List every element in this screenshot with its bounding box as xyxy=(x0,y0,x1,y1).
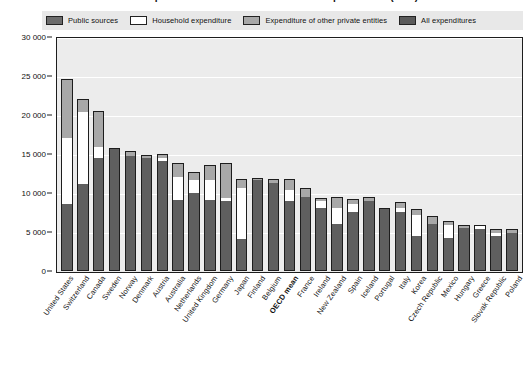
stacked-bar[interactable] xyxy=(252,178,263,271)
stacked-bar[interactable] xyxy=(236,179,247,271)
stacked-bar[interactable] xyxy=(363,197,374,271)
stacked-bar[interactable] xyxy=(474,225,485,271)
bar-segment-public xyxy=(332,224,341,270)
bar-segment-public xyxy=(78,184,87,270)
y-axis-tick-label: 30 000 xyxy=(22,33,46,42)
y-axis: 30 00025 00020 00015 00010 0005 0000 xyxy=(0,30,52,280)
bar-segment-public xyxy=(62,204,71,270)
stacked-bar[interactable] xyxy=(93,111,104,271)
stacked-bar[interactable] xyxy=(458,225,469,271)
stacked-bar[interactable] xyxy=(109,148,120,271)
bar-segment-public xyxy=(316,208,325,270)
bar-column[interactable] xyxy=(170,39,186,271)
bar-column[interactable] xyxy=(75,39,91,271)
bar-column[interactable] xyxy=(440,39,456,271)
legend-item-other[interactable]: Expenditure of other private entities xyxy=(243,16,387,25)
bar-column[interactable] xyxy=(250,39,266,271)
bar-segment-public xyxy=(158,161,167,270)
y-axis-tick-label: 15 000 xyxy=(22,150,46,159)
bar-segment-household xyxy=(348,204,357,212)
bar-column[interactable] xyxy=(218,39,234,271)
bar-segment-public xyxy=(475,229,484,270)
bar-column[interactable] xyxy=(138,39,154,271)
bar-column[interactable] xyxy=(281,39,297,271)
bar-column[interactable] xyxy=(456,39,472,271)
bar-segment-household xyxy=(316,201,325,208)
stacked-bar[interactable] xyxy=(204,165,215,272)
bar-column[interactable] xyxy=(377,39,393,271)
bar-segment-other-private xyxy=(189,173,198,181)
bar-column[interactable] xyxy=(91,39,107,271)
bar-segment-public xyxy=(205,200,214,270)
plot-wrapper xyxy=(56,37,523,273)
stacked-bar[interactable] xyxy=(61,79,72,271)
bar-column[interactable] xyxy=(234,39,250,271)
bar-segment-public xyxy=(380,209,389,270)
stacked-bar[interactable] xyxy=(172,163,183,271)
y-axis-tick-label: 25 000 xyxy=(22,72,46,81)
bar-column[interactable] xyxy=(424,39,440,271)
bar-segment-household xyxy=(189,180,198,192)
stacked-bar[interactable] xyxy=(331,197,342,271)
y-axis-tick-mark xyxy=(47,193,52,194)
legend-label: Public sources xyxy=(68,16,118,25)
legend-swatch-all-icon xyxy=(399,16,416,25)
bar-column[interactable] xyxy=(59,39,75,271)
legend-item-household[interactable]: Household expenditure xyxy=(130,16,231,25)
bar-segment-public xyxy=(173,200,182,270)
bar-segment-household xyxy=(78,112,87,184)
y-axis-tick-mark xyxy=(47,154,52,155)
bar-segment-public xyxy=(507,233,516,270)
bar-column[interactable] xyxy=(472,39,488,271)
bar-column[interactable] xyxy=(107,39,123,271)
bar-column[interactable] xyxy=(123,39,139,271)
stacked-bar[interactable] xyxy=(315,198,326,271)
stacked-bar[interactable] xyxy=(411,209,422,271)
stacked-bar[interactable] xyxy=(188,172,199,271)
bar-column[interactable] xyxy=(488,39,504,271)
bar-segment-other-private xyxy=(94,112,103,146)
bar-segment-public xyxy=(126,156,135,270)
bar-segment-other-private xyxy=(221,164,230,198)
legend-item-all[interactable]: All expenditures xyxy=(399,16,476,25)
bar-segment-public xyxy=(444,238,453,270)
stacked-bar[interactable] xyxy=(141,155,152,271)
legend-swatch-public-icon xyxy=(46,16,63,25)
bar-column[interactable] xyxy=(154,39,170,271)
stacked-bar[interactable] xyxy=(157,154,168,271)
stacked-bar[interactable] xyxy=(443,221,454,271)
bar-column[interactable] xyxy=(266,39,282,271)
stacked-bar[interactable] xyxy=(284,179,295,271)
bar-segment-other-private xyxy=(285,180,294,190)
legend-item-public[interactable]: Public sources xyxy=(46,16,118,25)
stacked-bar[interactable] xyxy=(395,202,406,271)
bar-column[interactable] xyxy=(329,39,345,271)
bar-segment-public xyxy=(364,201,373,270)
stacked-bar[interactable] xyxy=(490,229,501,271)
stacked-bar[interactable] xyxy=(506,229,517,271)
stacked-bar[interactable] xyxy=(379,208,390,271)
bar-segment-public xyxy=(491,236,500,270)
bar-column[interactable] xyxy=(297,39,313,271)
bar-segment-household xyxy=(94,147,103,159)
bar-column[interactable] xyxy=(409,39,425,271)
bar-column[interactable] xyxy=(504,39,520,271)
stacked-bar[interactable] xyxy=(427,216,438,271)
bar-segment-public xyxy=(412,236,421,270)
bar-column[interactable] xyxy=(202,39,218,271)
bar-column[interactable] xyxy=(393,39,409,271)
stacked-bar[interactable] xyxy=(220,163,231,271)
bar-column[interactable] xyxy=(345,39,361,271)
legend-label: Household expenditure xyxy=(152,16,231,25)
y-axis-tick-label: 5 000 xyxy=(26,228,46,237)
bar-segment-other-private xyxy=(428,217,437,224)
bar-column[interactable] xyxy=(186,39,202,271)
stacked-bar[interactable] xyxy=(347,199,358,271)
bar-column[interactable] xyxy=(361,39,377,271)
stacked-bar[interactable] xyxy=(77,99,88,271)
stacked-bar[interactable] xyxy=(125,151,136,271)
stacked-bar[interactable] xyxy=(268,179,279,271)
bar-column[interactable] xyxy=(313,39,329,271)
bar-segment-household xyxy=(237,188,246,239)
stacked-bar[interactable] xyxy=(300,188,311,271)
